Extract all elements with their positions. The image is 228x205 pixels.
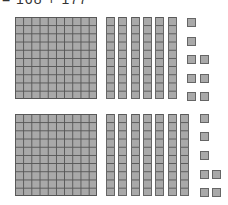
ten-rod xyxy=(118,114,127,196)
ten-rod xyxy=(118,17,127,99)
unit-cube xyxy=(187,37,196,46)
unit-cube xyxy=(212,170,221,179)
ten-rod xyxy=(180,114,189,196)
unit-cube xyxy=(200,114,209,123)
unit-cube xyxy=(187,55,196,64)
ten-rod xyxy=(155,114,164,196)
ten-rod xyxy=(106,17,115,99)
hundred-block xyxy=(15,17,97,99)
unit-cube xyxy=(212,188,221,197)
ten-rod xyxy=(131,114,140,196)
unit-cube xyxy=(200,92,209,101)
ten-rod xyxy=(106,114,115,196)
ten-rod xyxy=(155,17,164,99)
unit-cube xyxy=(200,188,209,197)
ten-rod xyxy=(143,17,152,99)
unit-cube xyxy=(200,55,209,64)
unit-cube xyxy=(200,170,209,179)
ten-rod xyxy=(168,17,177,99)
unit-cube xyxy=(187,74,196,83)
unit-cube xyxy=(187,92,196,101)
ten-rod xyxy=(143,114,152,196)
unit-cube xyxy=(187,18,196,27)
unit-cube xyxy=(200,132,209,141)
equation-text: = 168 + 177 xyxy=(2,0,88,7)
unit-cube xyxy=(200,151,209,160)
ten-rod xyxy=(131,17,140,99)
ten-rod xyxy=(168,114,177,196)
hundred-block xyxy=(15,114,97,196)
unit-cube xyxy=(200,74,209,83)
